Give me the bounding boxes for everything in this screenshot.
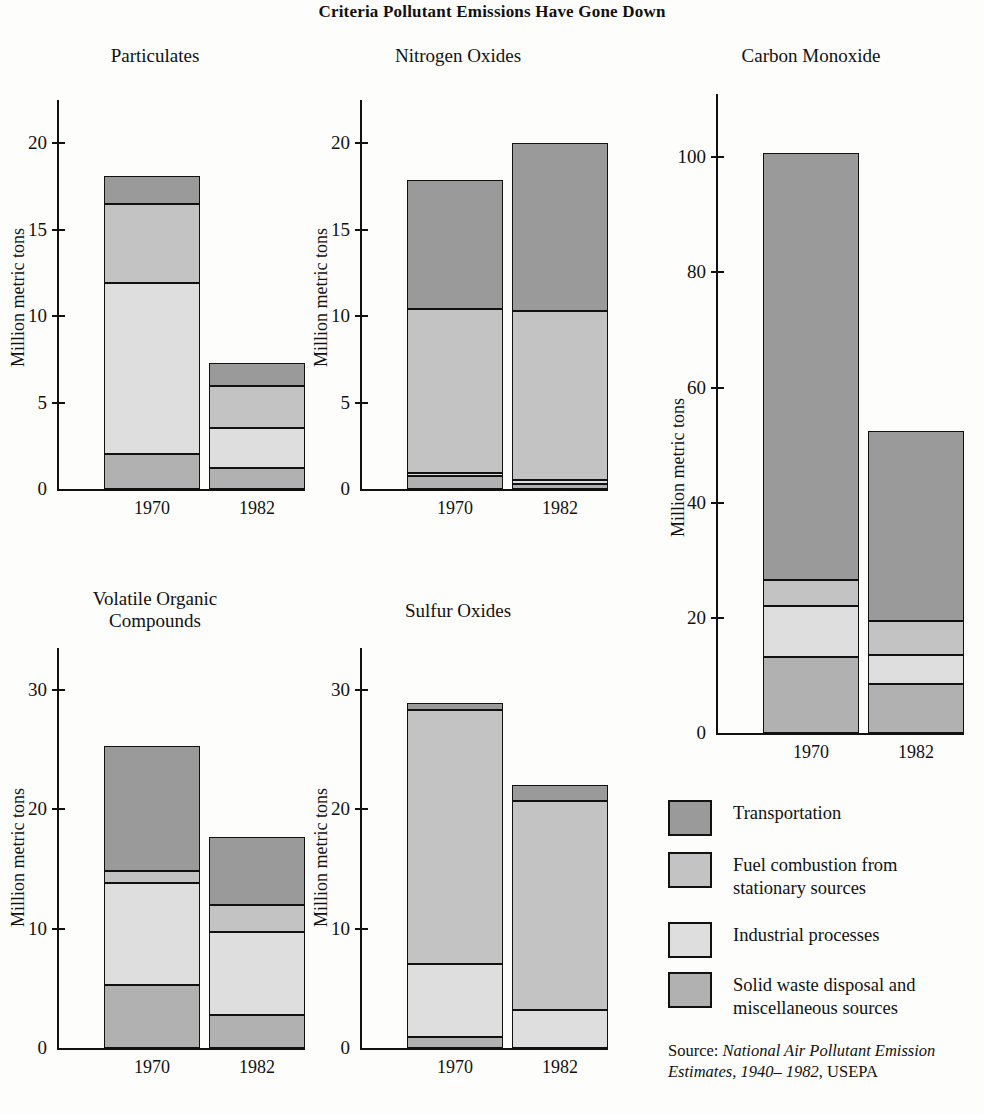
y-tick-particulates-5 [52, 402, 65, 404]
bar-segment-solid-waste [763, 657, 859, 733]
y-tick-label-volatile_organic_compounds-10: 10 [3, 918, 47, 940]
bar-segment-fuel-combustion [512, 801, 608, 1010]
y-tick-carbon_monoxide-40 [711, 502, 724, 504]
bar-segment-industrial-processes [209, 428, 305, 469]
y-tick-label-volatile_organic_compounds-20: 20 [3, 798, 47, 820]
bar-segment-solid-waste [209, 468, 305, 489]
x-axis-label-carbon_monoxide-1982: 1982 [898, 742, 934, 763]
bar-segment-transportation [868, 431, 964, 621]
chart-page: Criteria Pollutant Emissions Have Gone D… [0, 0, 984, 1114]
y-tick-label-nitrogen_oxides-5: 5 [306, 392, 350, 414]
bar-segment-solid-waste [868, 684, 964, 733]
x-axis-label-carbon_monoxide-1970: 1970 [793, 742, 829, 763]
bar-segment-transportation [104, 746, 200, 871]
bar-segment-fuel-combustion [868, 621, 964, 656]
bar-segment-industrial-processes [763, 606, 859, 657]
y-axis-line-sulfur_oxides [360, 648, 362, 1050]
bar-sulfur_oxides-1970 [407, 703, 503, 1048]
legend: TransportationFuel combustion from stati… [0, 0, 984, 300]
legend-item-transportation[interactable]: Transportation [668, 800, 984, 836]
bar-segment-solid-waste [512, 484, 608, 489]
y-tick-label-particulates-5: 5 [3, 392, 47, 414]
bar-segment-fuel-combustion [209, 905, 305, 932]
bar-segment-industrial-processes [104, 283, 200, 453]
y-tick-label-carbon_monoxide-40: 40 [662, 492, 706, 514]
legend-swatch-fuel-combustion [668, 852, 712, 888]
y-tick-label-sulfur_oxides-20: 20 [306, 798, 350, 820]
x-axis-line-volatile_organic_compounds [57, 1048, 305, 1050]
y-tick-carbon_monoxide-60 [711, 387, 724, 389]
y-tick-volatile_organic_compounds-30 [52, 689, 65, 691]
legend-item-fuel-combustion[interactable]: Fuel combustion from stationary sources [668, 852, 984, 900]
x-axis-label-particulates-1982: 1982 [239, 498, 275, 519]
x-axis-label-nitrogen_oxides-1982: 1982 [542, 498, 578, 519]
bar-segment-solid-waste [407, 476, 503, 489]
x-axis-label-nitrogen_oxides-1970: 1970 [437, 498, 473, 519]
x-axis-label-sulfur_oxides-1970: 1970 [437, 1057, 473, 1078]
x-axis-label-volatile_organic_compounds-1970: 1970 [134, 1057, 170, 1078]
legend-label: Fuel combustion from stationary sources [733, 852, 897, 900]
legend-swatch-industrial [668, 922, 712, 958]
x-axis-label-volatile_organic_compounds-1982: 1982 [239, 1057, 275, 1078]
legend-item-industrial-processes[interactable]: Industrial processes [668, 922, 984, 958]
bar-segment-industrial-processes [209, 932, 305, 1014]
y-tick-nitrogen_oxides-5 [355, 402, 368, 404]
bar-volatile_organic_compounds-1970 [104, 746, 200, 1048]
y-tick-label-sulfur_oxides-10: 10 [306, 918, 350, 940]
legend-label: Transportation [733, 800, 841, 825]
y-tick-label-carbon_monoxide-60: 60 [662, 377, 706, 399]
legend-swatch-transportation [668, 800, 712, 836]
legend-item-solid-waste[interactable]: Solid waste disposal and miscellaneous s… [668, 972, 984, 1020]
bar-segment-transportation [512, 785, 608, 801]
source-suffix: , USEPA [819, 1062, 878, 1081]
y-tick-carbon_monoxide-20 [711, 617, 724, 619]
source-note: Source: National Air Pollutant Emission … [668, 1040, 984, 1082]
y-tick-label-nitrogen_oxides-10: 10 [306, 305, 350, 327]
bar-volatile_organic_compounds-1982 [209, 837, 305, 1048]
bar-segment-transportation [407, 703, 503, 710]
y-tick-volatile_organic_compounds-10 [52, 928, 65, 930]
y-tick-label-volatile_organic_compounds-30: 30 [3, 679, 47, 701]
x-axis-line-nitrogen_oxides [360, 489, 608, 491]
y-tick-label-sulfur_oxides-0: 0 [306, 1037, 350, 1059]
y-axis-label-volatile_organic_compounds: Million metric tons [8, 745, 29, 970]
y-tick-particulates-10 [52, 315, 65, 317]
y-tick-volatile_organic_compounds-20 [52, 808, 65, 810]
bar-segment-industrial-processes [104, 883, 200, 984]
legend-swatch-solid-waste [668, 972, 712, 1008]
y-tick-sulfur_oxides-10 [355, 928, 368, 930]
x-axis-line-carbon_monoxide [716, 733, 964, 735]
bar-segment-industrial-processes [407, 964, 503, 1037]
y-tick-nitrogen_oxides-10 [355, 315, 368, 317]
bar-segment-industrial-processes [512, 480, 608, 483]
y-tick-label-volatile_organic_compounds-0: 0 [3, 1037, 47, 1059]
bar-segment-fuel-combustion [407, 309, 503, 472]
bar-segment-fuel-combustion [209, 386, 305, 427]
bar-segment-transportation [209, 363, 305, 386]
y-tick-label-carbon_monoxide-20: 20 [662, 607, 706, 629]
y-tick-label-nitrogen_oxides-0: 0 [306, 478, 350, 500]
bar-segment-industrial-processes [512, 1010, 608, 1048]
bar-segment-fuel-combustion [763, 580, 859, 606]
y-tick-label-particulates-0: 0 [3, 478, 47, 500]
bar-segment-solid-waste [104, 985, 200, 1048]
bar-segment-industrial-processes [407, 473, 503, 476]
y-tick-label-carbon_monoxide-0: 0 [662, 722, 706, 744]
panel-title-sulfur_oxides: Sulfur Oxides [333, 600, 583, 622]
y-tick-label-sulfur_oxides-30: 30 [306, 679, 350, 701]
bar-carbon_monoxide-1982 [868, 431, 964, 733]
x-axis-label-particulates-1970: 1970 [134, 498, 170, 519]
bar-segment-fuel-combustion [512, 311, 608, 480]
bar-particulates-1982 [209, 363, 305, 489]
bar-segment-fuel-combustion [407, 710, 503, 964]
legend-label: Industrial processes [733, 922, 879, 947]
y-tick-sulfur_oxides-30 [355, 689, 368, 691]
bar-segment-industrial-processes [868, 655, 964, 684]
bar-segment-solid-waste [104, 454, 200, 489]
panel-title-volatile_organic_compounds: Volatile Organic Compounds [30, 588, 280, 632]
bar-segment-transportation [209, 837, 305, 905]
x-axis-line-particulates [57, 489, 305, 491]
bar-sulfur_oxides-1982 [512, 785, 608, 1048]
y-axis-label-carbon_monoxide: Million metric tons [668, 355, 689, 580]
legend-label: Solid waste disposal and miscellaneous s… [733, 972, 915, 1020]
